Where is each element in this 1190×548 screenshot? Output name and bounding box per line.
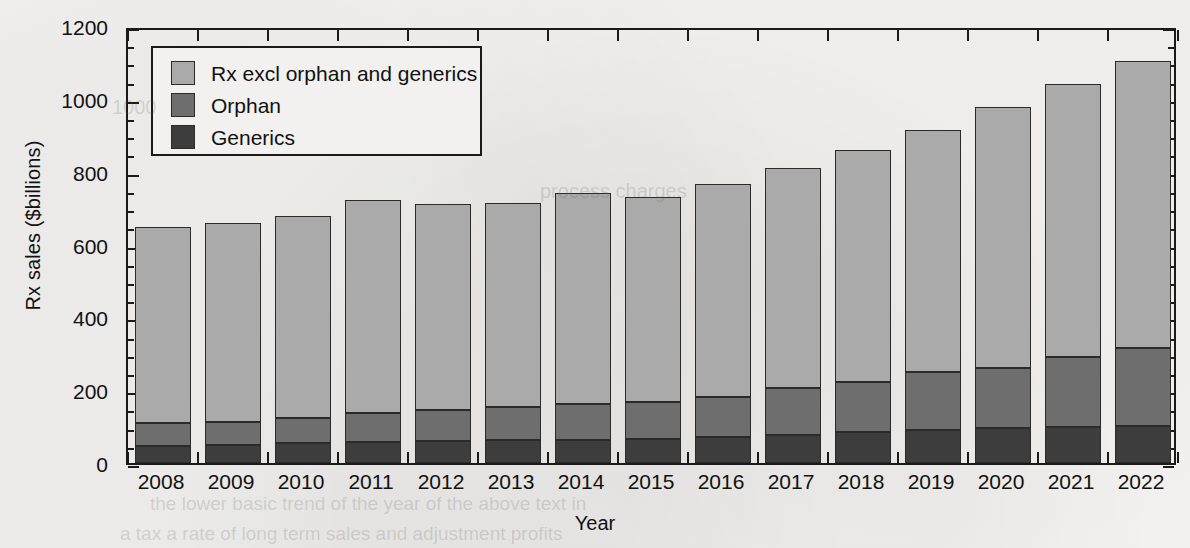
- bar-segment-rx-excl-orphan-and-generics[interactable]: [625, 197, 681, 402]
- bar-2017[interactable]: [765, 168, 821, 463]
- y-axis-tick-labels: 020040060080010001200: [0, 28, 118, 465]
- bar-2008[interactable]: [135, 227, 191, 463]
- x-axis-title: Year: [0, 512, 1190, 535]
- x-tick-label: 2018: [838, 470, 885, 494]
- bar-2021[interactable]: [1045, 84, 1101, 463]
- bar-chart: Rx sales ($billions) Year 02004006008001…: [0, 0, 1190, 548]
- bar-segment-rx-excl-orphan-and-generics[interactable]: [555, 193, 611, 404]
- bar-segment-orphan[interactable]: [205, 422, 261, 445]
- bar-segment-rx-excl-orphan-and-generics[interactable]: [1115, 61, 1171, 349]
- x-tick-label: 2019: [908, 470, 955, 494]
- bar-segment-rx-excl-orphan-and-generics[interactable]: [415, 204, 471, 410]
- bar-segment-orphan[interactable]: [835, 382, 891, 432]
- bar-2016[interactable]: [695, 184, 751, 463]
- bar-segment-generics[interactable]: [485, 440, 541, 463]
- bar-segment-orphan[interactable]: [695, 397, 751, 437]
- legend-swatch-orphan: [171, 93, 195, 117]
- x-tick-label: 2013: [488, 470, 535, 494]
- y-tick-label: 800: [73, 162, 108, 186]
- legend-item: Rx excl orphan and generics: [171, 57, 480, 89]
- legend-item: Generics: [171, 121, 480, 153]
- axis-tick: [1177, 452, 1179, 463]
- bar-segment-generics[interactable]: [415, 441, 471, 463]
- bar-segment-generics[interactable]: [975, 428, 1031, 463]
- x-tick-label: 2012: [418, 470, 465, 494]
- axis-tick: [1177, 30, 1179, 41]
- chart-legend: Rx excl orphan and generics Orphan Gener…: [151, 46, 482, 156]
- bar-2011[interactable]: [345, 200, 401, 463]
- bar-2013[interactable]: [485, 203, 541, 463]
- bar-segment-generics[interactable]: [625, 439, 681, 463]
- x-tick-label: 2008: [138, 470, 185, 494]
- bar-segment-generics[interactable]: [835, 432, 891, 463]
- bar-segment-rx-excl-orphan-and-generics[interactable]: [765, 168, 821, 388]
- bar-2019[interactable]: [905, 130, 961, 463]
- axis-tick: [1163, 466, 1174, 468]
- y-tick-label: 600: [73, 235, 108, 259]
- bar-segment-orphan[interactable]: [1115, 348, 1171, 426]
- bar-segment-rx-excl-orphan-and-generics[interactable]: [1045, 84, 1101, 358]
- bar-segment-orphan[interactable]: [975, 368, 1031, 428]
- y-tick-label: 1000: [61, 89, 108, 113]
- bar-segment-generics[interactable]: [1045, 427, 1101, 463]
- bar-segment-rx-excl-orphan-and-generics[interactable]: [135, 227, 191, 423]
- bar-segment-generics[interactable]: [695, 437, 751, 463]
- x-tick-label: 2022: [1118, 470, 1165, 494]
- bar-2020[interactable]: [975, 107, 1031, 463]
- x-tick-label: 2009: [208, 470, 255, 494]
- bar-segment-generics[interactable]: [205, 445, 261, 463]
- bar-segment-orphan[interactable]: [555, 404, 611, 440]
- legend-label: Orphan: [211, 95, 281, 116]
- bar-segment-orphan[interactable]: [765, 388, 821, 434]
- bar-segment-rx-excl-orphan-and-generics[interactable]: [205, 223, 261, 422]
- y-tick-label: 400: [73, 307, 108, 331]
- bar-segment-rx-excl-orphan-and-generics[interactable]: [975, 107, 1031, 368]
- y-tick-label: 0: [96, 453, 108, 477]
- bar-segment-orphan[interactable]: [485, 407, 541, 441]
- bar-segment-orphan[interactable]: [345, 413, 401, 442]
- bar-segment-rx-excl-orphan-and-generics[interactable]: [275, 216, 331, 418]
- bar-segment-rx-excl-orphan-and-generics[interactable]: [905, 130, 961, 372]
- bar-segment-generics[interactable]: [345, 442, 401, 463]
- bar-2010[interactable]: [275, 216, 331, 463]
- bar-segment-rx-excl-orphan-and-generics[interactable]: [485, 203, 541, 407]
- x-tick-label: 2010: [278, 470, 325, 494]
- bar-segment-orphan[interactable]: [415, 410, 471, 441]
- bar-segment-orphan[interactable]: [135, 423, 191, 446]
- x-tick-label: 2016: [698, 470, 745, 494]
- bar-segment-orphan[interactable]: [905, 372, 961, 430]
- axis-tick: [128, 466, 139, 468]
- x-tick-label: 2014: [558, 470, 605, 494]
- x-tick-label: 2017: [768, 470, 815, 494]
- bar-segment-rx-excl-orphan-and-generics[interactable]: [695, 184, 751, 397]
- y-tick-label: 200: [73, 380, 108, 404]
- x-tick-label: 2011: [348, 470, 393, 494]
- x-tick-label: 2015: [628, 470, 675, 494]
- bar-2015[interactable]: [625, 197, 681, 463]
- legend-label: Rx excl orphan and generics: [211, 63, 477, 84]
- bar-segment-rx-excl-orphan-and-generics[interactable]: [345, 200, 401, 413]
- bar-segment-generics[interactable]: [1115, 426, 1171, 463]
- y-tick-label: 1200: [61, 16, 108, 40]
- bar-segment-orphan[interactable]: [625, 402, 681, 439]
- x-tick-label: 2020: [978, 470, 1025, 494]
- bar-2018[interactable]: [835, 150, 891, 463]
- bar-segment-generics[interactable]: [905, 430, 961, 463]
- bar-segment-generics[interactable]: [765, 435, 821, 463]
- bar-segment-rx-excl-orphan-and-generics[interactable]: [835, 150, 891, 382]
- bar-2022[interactable]: [1115, 61, 1171, 463]
- legend-item: Orphan: [171, 89, 480, 121]
- bar-2012[interactable]: [415, 204, 471, 463]
- bar-segment-generics[interactable]: [275, 443, 331, 463]
- legend-label: Generics: [211, 127, 295, 148]
- bar-2009[interactable]: [205, 223, 261, 463]
- bar-segment-generics[interactable]: [555, 440, 611, 463]
- legend-swatch-rx-excl-orphan-and-generics: [171, 61, 195, 85]
- bar-segment-orphan[interactable]: [275, 418, 331, 443]
- legend-swatch-generics: [171, 125, 195, 149]
- x-axis-tick-labels: 2008200920102011201220132014201520162017…: [126, 470, 1176, 500]
- x-tick-label: 2021: [1048, 470, 1095, 494]
- bar-2014[interactable]: [555, 193, 611, 463]
- bar-segment-orphan[interactable]: [1045, 357, 1101, 426]
- bar-segment-generics[interactable]: [135, 446, 191, 463]
